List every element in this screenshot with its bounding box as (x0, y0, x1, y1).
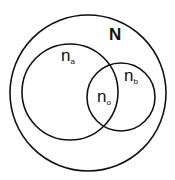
intersection-label: no (97, 87, 111, 107)
set-b-label: nb (124, 66, 138, 86)
universe-label: N (109, 25, 121, 44)
venn-diagram: N na nb no (0, 0, 175, 180)
set-a-label: na (61, 46, 75, 66)
